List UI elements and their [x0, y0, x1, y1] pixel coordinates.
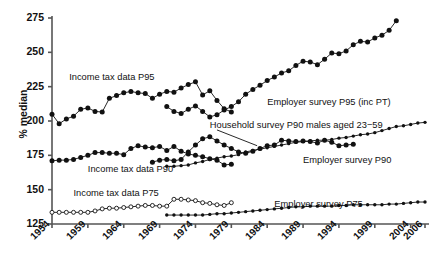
series-annotation-label: Employer survey P75 [274, 199, 362, 209]
series-annotation-label: Employer survey P90 [303, 155, 391, 165]
y-axis-tick-label: 250 [10, 45, 44, 57]
chart-container: % median 125150175200225250275 195419591… [0, 0, 435, 271]
y-axis-tick-label: 225 [10, 80, 44, 92]
series-annotation-label: Income tax data P95 [69, 72, 154, 82]
y-axis-tick-label: 150 [10, 183, 44, 195]
series-annotation-label: Employer survey P95 (inc PT) [267, 97, 390, 107]
chart-series-layer [50, 18, 427, 217]
y-axis-tick-label: 175 [10, 148, 44, 160]
series-annotation-label: Household survey P90 males aged 23−59 [210, 120, 383, 130]
series-annotation-label: Income tax data P75 [74, 188, 159, 198]
y-axis-tick-label: 200 [10, 114, 44, 126]
series-annotation-label: Income tax data P90 [88, 164, 173, 174]
y-axis-tick-label: 275 [10, 11, 44, 23]
